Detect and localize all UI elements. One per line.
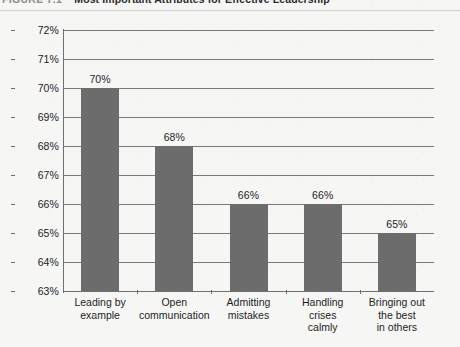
figure-number-label: FIGURE 7.1	[2, 0, 62, 5]
y-axis-tick-mark	[11, 175, 15, 176]
y-axis-tick-mark	[11, 146, 15, 147]
x-axis-tick-mark	[137, 290, 138, 294]
category-label-line: Admitting	[227, 296, 271, 308]
bar	[155, 146, 193, 291]
y-axis-tick-label: 68%	[19, 140, 59, 152]
y-axis-tick-label: 69%	[19, 111, 59, 123]
y-axis-tick-label: 72%	[19, 24, 59, 36]
bar-value-label: 68%	[144, 131, 204, 143]
category-label-line: Open	[161, 296, 187, 308]
x-axis-category-label: Admittingmistakes	[209, 296, 289, 321]
bar-value-label: 70%	[70, 73, 130, 85]
y-axis-line	[63, 29, 64, 293]
x-axis-line	[63, 291, 434, 292]
bar	[230, 204, 268, 291]
figure-title-text: Most Important Attributes for Effective …	[74, 0, 329, 5]
category-label-line: crises	[309, 309, 336, 321]
plot-area: 70%68%66%66%65%	[63, 30, 434, 291]
y-axis-tick-mark	[11, 262, 15, 263]
x-axis-category-label: Handlingcrisescalmly	[283, 296, 363, 334]
x-axis-tick-mark	[360, 290, 361, 294]
y-axis-tick-mark	[11, 291, 15, 292]
bar-value-label: 65%	[367, 218, 427, 230]
y-axis-tick-mark	[11, 30, 15, 31]
bar	[378, 233, 416, 291]
x-axis-category-labels: Leading byexampleOpencommunicationAdmitt…	[63, 294, 434, 346]
x-axis-category-label: Bringing outthe bestin others	[357, 296, 437, 334]
bar-chart: 72%71%70%69%68%67%66%65%64%63% 70%68%66%…	[0, 11, 460, 347]
bar	[81, 88, 119, 291]
figure-caption: FIGURE 7.1 Most Important Attributes for…	[2, 0, 330, 5]
y-axis-tick-label: 66%	[19, 198, 59, 210]
category-label-line: example	[80, 309, 120, 321]
x-axis-category-label: Leading byexample	[60, 296, 140, 321]
bar-value-label: 66%	[293, 189, 353, 201]
gridline	[63, 30, 434, 31]
x-axis-category-label: Opencommunication	[134, 296, 214, 321]
y-axis-tick-label: 70%	[19, 82, 59, 94]
category-label-line: Leading by	[74, 296, 125, 308]
y-axis-tick-label: 64%	[19, 256, 59, 268]
x-axis-tick-mark	[211, 290, 212, 294]
y-axis-tick-label: 67%	[19, 169, 59, 181]
category-label-line: calmly	[308, 321, 338, 333]
category-label-line: Bringing out	[369, 296, 425, 308]
y-axis-tick-mark	[11, 117, 15, 118]
y-axis-tick-mark	[11, 59, 15, 60]
bar	[304, 204, 342, 291]
category-label-line: the best	[378, 309, 415, 321]
category-label-line: in others	[377, 321, 417, 333]
category-label-line: communication	[139, 309, 210, 321]
y-axis-tick-label: 71%	[19, 53, 59, 65]
y-axis-tick-mark	[11, 204, 15, 205]
y-axis-tick-label: 63%	[19, 285, 59, 297]
scan-speck	[94, 315, 96, 317]
category-label-line: Handling	[302, 296, 343, 308]
y-axis-tick-labels: 72%71%70%69%68%67%66%65%64%63%	[15, 30, 59, 291]
y-axis-tick-mark	[11, 88, 15, 89]
x-axis-tick-mark	[286, 290, 287, 294]
category-label-line: mistakes	[228, 309, 269, 321]
y-axis-tick-label: 65%	[19, 227, 59, 239]
gridline	[63, 59, 434, 60]
bar-value-label: 66%	[219, 189, 279, 201]
y-axis-tick-mark	[11, 233, 15, 234]
